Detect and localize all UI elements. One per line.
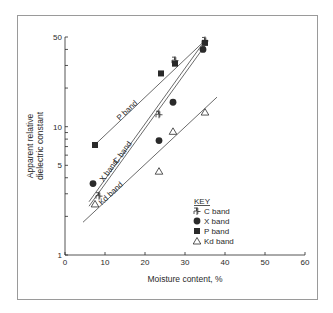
fit-line-label: P band <box>115 99 139 123</box>
legend: KEY C bandX bandP bandKd band <box>193 197 234 246</box>
y-tick-labels: 151050 <box>53 33 62 260</box>
legend-entry: X band <box>194 217 230 226</box>
x-tick-label: 50 <box>261 258 270 267</box>
x-axis-label: Moisture content, % <box>147 274 223 284</box>
legend-entry-label: X band <box>204 217 229 226</box>
x-tick-label: 30 <box>181 258 190 267</box>
square-marker-icon <box>194 228 200 234</box>
x-tick-labels: 0102030405060 <box>63 258 310 267</box>
triangle-marker-icon <box>155 168 163 175</box>
legend-entries: C bandX bandP bandKd band <box>193 207 234 246</box>
square-marker-icon <box>158 70 164 76</box>
line-labels: P bandC bandX bandKd band <box>97 99 140 207</box>
legend-entry-label: Kd band <box>204 237 234 246</box>
chart-canvas: 0102030405060 151050 Moisture content, %… <box>0 0 333 313</box>
c-band-marker-icon <box>156 110 163 118</box>
x-tick-label: 10 <box>101 258 110 267</box>
legend-title: KEY <box>194 197 211 206</box>
fit-line-label: X band <box>98 158 120 184</box>
fit-line-label: Kd band <box>97 180 125 207</box>
y-tick-label: 1 <box>58 251 63 260</box>
circle-marker-icon <box>90 180 97 187</box>
legend-entry: C band <box>194 207 230 216</box>
x-axis-ticks <box>65 252 305 255</box>
plot-area <box>65 37 305 255</box>
y-axis-ticks <box>65 37 68 255</box>
y-tick-label: 10 <box>53 123 62 132</box>
triangle-marker-icon <box>193 238 201 245</box>
y-tick-label: 5 <box>58 161 63 170</box>
legend-entry: P band <box>194 227 229 236</box>
circle-marker-icon <box>156 137 163 144</box>
legend-entry-label: C band <box>204 207 230 216</box>
fit-line <box>89 43 207 206</box>
x-tick-label: 20 <box>141 258 150 267</box>
x-tick-label: 0 <box>63 258 68 267</box>
y-axis-label-line2: dielectric constant <box>35 111 45 180</box>
x-tick-label: 60 <box>301 258 310 267</box>
x-tick-label: 40 <box>221 258 230 267</box>
triangle-marker-icon <box>169 128 177 134</box>
y-tick-label: 50 <box>53 33 62 42</box>
y-axis-label: Apparent relative dielectric constant <box>25 111 45 180</box>
c-band-marker-icon <box>194 207 201 215</box>
square-marker-icon <box>92 142 98 148</box>
circle-marker-icon <box>200 46 207 53</box>
triangle-marker-icon <box>201 109 209 116</box>
fit-line <box>93 40 205 146</box>
circle-marker-icon <box>170 99 177 106</box>
legend-entry-label: P band <box>204 227 229 236</box>
y-axis-label-line1: Apparent relative <box>25 114 35 179</box>
legend-entry: Kd band <box>193 237 234 246</box>
caption-strip <box>0 305 333 313</box>
circle-marker-icon <box>194 218 201 225</box>
